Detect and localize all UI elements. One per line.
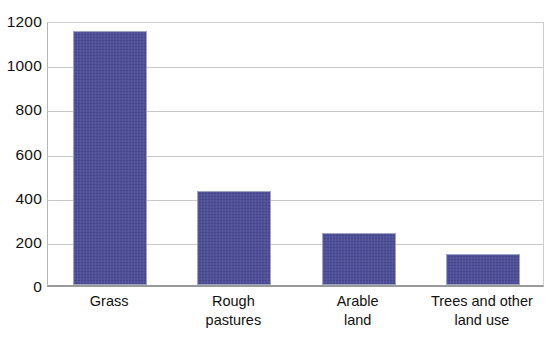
bar xyxy=(446,254,520,285)
bar xyxy=(197,191,271,285)
x-tick-label: Grass xyxy=(47,292,171,311)
bar xyxy=(322,233,396,285)
y-tick-label: 1000 xyxy=(0,58,42,74)
y-tick-label: 200 xyxy=(0,235,42,251)
y-axis: 020040060080010001200 xyxy=(0,0,42,337)
x-axis: GrassRough pasturesArable landTrees and … xyxy=(47,292,544,337)
y-tick-label: 0 xyxy=(0,279,42,295)
bar xyxy=(73,31,147,285)
y-tick-label: 400 xyxy=(0,191,42,207)
x-tick-label: Arable land xyxy=(296,292,420,330)
x-tick-label: Rough pastures xyxy=(171,292,295,330)
plot-area xyxy=(47,22,544,287)
x-tick-label: Trees and other land use xyxy=(420,292,544,330)
y-tick-label: 800 xyxy=(0,103,42,119)
bars xyxy=(48,23,543,285)
y-tick-label: 1200 xyxy=(0,14,42,30)
y-tick-label: 600 xyxy=(0,147,42,163)
bar-chart: 020040060080010001200 GrassRough pasture… xyxy=(0,0,554,337)
